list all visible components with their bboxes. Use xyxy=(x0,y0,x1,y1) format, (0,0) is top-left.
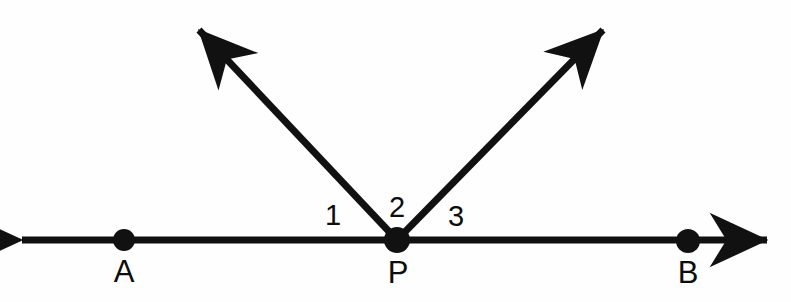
angle-label-1: 1 xyxy=(325,201,341,230)
angle-label-2: 2 xyxy=(389,193,405,222)
angle-label-3: 3 xyxy=(448,202,464,231)
point-label-P: P xyxy=(388,257,409,288)
point-dot-B xyxy=(676,229,700,253)
ray-upper-right xyxy=(397,30,603,240)
point-dot-A xyxy=(113,229,135,251)
point-label-B: B xyxy=(678,257,699,288)
point-label-A: A xyxy=(114,256,135,287)
ray-upper-left xyxy=(199,30,397,240)
diagram-canvas: A P B 1 2 3 xyxy=(0,0,791,302)
point-dot-P xyxy=(384,227,410,253)
